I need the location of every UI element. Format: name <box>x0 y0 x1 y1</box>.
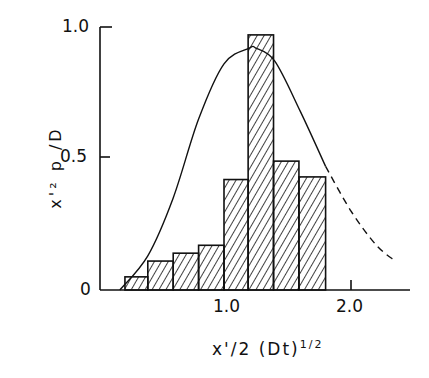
histogram-bar <box>125 277 148 290</box>
x-tick-label-1: 1.0 <box>213 296 240 316</box>
histogram-bar <box>299 177 326 290</box>
theory-curve-dashed <box>326 166 396 261</box>
y-tick-label-0: 0 <box>80 279 91 299</box>
histogram-bar <box>274 161 299 290</box>
x-axis-label-sup: 1/2 <box>300 338 324 351</box>
x-axis-label-main: x'/2 (Dt) <box>212 339 300 359</box>
histogram-bar <box>248 35 273 290</box>
histogram-bars <box>125 35 326 290</box>
histogram-bar <box>148 261 173 290</box>
y-axis-label: x'² p /D <box>46 126 65 208</box>
x-axis-label: x'/2 (Dt)1/2 <box>212 338 323 359</box>
y-tick-label-1: 1.0 <box>62 16 89 36</box>
x-tick-label-2: 2.0 <box>336 296 363 316</box>
histogram-bar <box>224 180 248 290</box>
histogram-bar <box>199 245 224 290</box>
histogram-bar <box>173 253 198 290</box>
